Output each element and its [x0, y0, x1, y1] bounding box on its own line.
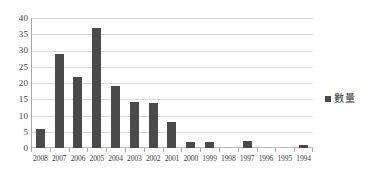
y-tick-label: 10 — [2, 112, 28, 121]
x-tick — [144, 148, 163, 152]
bar-slot-2000 — [181, 18, 200, 148]
x-tick — [31, 148, 50, 152]
bar-slot-2001 — [163, 18, 182, 148]
bar-2001[interactable] — [167, 122, 176, 148]
x-tick-label-2002: 2002 — [144, 154, 163, 168]
legend: 數量 — [325, 93, 355, 104]
y-tick-label: 15 — [2, 95, 28, 104]
x-tick-label-1994: 1994 — [294, 154, 313, 168]
x-tick-label-1997: 1997 — [238, 154, 257, 168]
legend-square-marker-icon — [325, 96, 331, 102]
bar-slot-2004 — [106, 18, 125, 148]
x-tick-label-2006: 2006 — [69, 154, 88, 168]
x-tick — [163, 148, 182, 152]
bar-slot-2007 — [50, 18, 69, 148]
bar-2003[interactable] — [130, 102, 139, 148]
bar-2007[interactable] — [55, 54, 64, 148]
x-tick — [200, 148, 219, 152]
x-tick-label-2005: 2005 — [87, 154, 106, 168]
x-tick-label-2004: 2004 — [106, 154, 125, 168]
x-tick-label-1999: 1999 — [200, 154, 219, 168]
bar-2004[interactable] — [111, 86, 120, 148]
x-tick-label-2000: 2000 — [181, 154, 200, 168]
y-tick-label: 25 — [2, 63, 28, 72]
plot-area — [31, 18, 313, 148]
y-tick-label: 35 — [2, 30, 28, 39]
bar-1997[interactable] — [243, 141, 252, 148]
bar-slot-1999 — [200, 18, 219, 148]
bar-2005[interactable] — [92, 28, 101, 148]
x-tick — [219, 148, 238, 152]
y-tick-label: 40 — [2, 14, 28, 23]
x-axis-ticks — [31, 148, 313, 152]
y-axis: 40 35 30 25 20 15 10 5 0 — [0, 0, 30, 182]
bar-2006[interactable] — [73, 77, 82, 148]
bars-container — [31, 18, 313, 148]
x-tick — [106, 148, 125, 152]
x-tick — [125, 148, 144, 152]
legend-label: 數量 — [334, 93, 355, 104]
x-tick — [69, 148, 88, 152]
x-tick — [257, 148, 276, 152]
bar-slot-1998 — [219, 18, 238, 148]
y-tick-label: 30 — [2, 46, 28, 55]
y-tick-label: 5 — [2, 128, 28, 137]
bar-2008[interactable] — [36, 129, 45, 148]
x-tick — [87, 148, 106, 152]
x-tick — [275, 148, 294, 152]
x-tick — [294, 148, 313, 152]
bar-slot-1996 — [257, 18, 276, 148]
x-tick-label-2003: 2003 — [125, 154, 144, 168]
x-tick-label-2001: 2001 — [163, 154, 182, 168]
bar-2002[interactable] — [149, 103, 158, 148]
x-tick — [238, 148, 257, 152]
bar-slot-2008 — [31, 18, 50, 148]
bar-slot-1994 — [294, 18, 313, 148]
bar-slot-2003 — [125, 18, 144, 148]
x-tick-label-1996: 1996 — [257, 154, 276, 168]
bar-slot-2006 — [69, 18, 88, 148]
x-tick-label-1995: 1995 — [275, 154, 294, 168]
y-tick-label: 20 — [2, 79, 28, 88]
y-tick-label: 0 — [2, 144, 28, 153]
x-tick — [50, 148, 69, 152]
x-tick-label-2008: 2008 — [31, 154, 50, 168]
x-tick-label-1998: 1998 — [219, 154, 238, 168]
x-tick-label-2007: 2007 — [50, 154, 69, 168]
x-tick — [181, 148, 200, 152]
bar-chart: 40 35 30 25 20 15 10 5 0 — [0, 0, 378, 182]
bar-slot-1995 — [275, 18, 294, 148]
bar-slot-1997 — [238, 18, 257, 148]
x-axis-labels: 2008 2007 2006 2005 2004 2003 2002 2001 … — [31, 154, 313, 168]
bar-slot-2005 — [87, 18, 106, 148]
bar-slot-2002 — [144, 18, 163, 148]
